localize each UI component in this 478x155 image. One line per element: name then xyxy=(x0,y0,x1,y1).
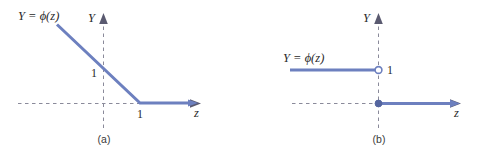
figure-container: Y = ϕ(z) Y z 1 1 (a) xyxy=(0,0,478,155)
panel-a-function-label: Y = ϕ(z) xyxy=(18,9,59,23)
panel-a-x-axis-label: z xyxy=(193,106,199,120)
panel-a: Y = ϕ(z) Y z 1 1 (a) xyxy=(18,9,201,145)
panel-a-x-tick-label: 1 xyxy=(137,107,143,121)
panel-b-x-axis-label: z xyxy=(453,106,459,120)
panel-b-open-endpoint xyxy=(375,67,382,74)
piecewise-function-figure: Y = ϕ(z) Y z 1 1 (a) xyxy=(0,0,478,155)
panel-b-closed-endpoint xyxy=(375,100,382,107)
panel-b-caption: (b) xyxy=(373,133,386,145)
panel-a-curve xyxy=(57,25,190,104)
panel-a-caption: (a) xyxy=(98,133,111,145)
panel-a-y-tick-label: 1 xyxy=(91,66,97,80)
panel-b-y-axis-label: Y xyxy=(363,11,372,25)
panel-a-y-axis-label: Y xyxy=(88,11,97,25)
panel-b: Y = ϕ(z) Y z 1 (b) xyxy=(283,11,461,145)
panel-b-y-axis-arrowhead xyxy=(374,13,383,24)
panel-b-value-label: 1 xyxy=(387,63,393,77)
panel-a-y-axis-arrowhead xyxy=(99,13,108,24)
panel-b-function-label: Y = ϕ(z) xyxy=(283,51,324,65)
